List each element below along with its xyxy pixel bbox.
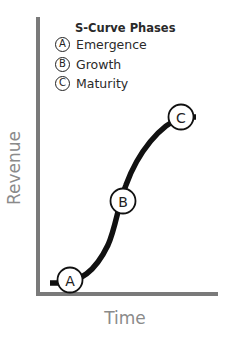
legend-item-emergence: A Emergence (55, 35, 176, 55)
y-axis-label: Revenue (4, 131, 24, 205)
badge-a-icon: A (55, 37, 70, 52)
legend: S-Curve Phases A Emergence B Growth C Ma… (55, 21, 176, 94)
badge-c-icon: C (55, 76, 70, 91)
node-a: A (58, 268, 83, 293)
node-b: B (111, 189, 136, 214)
node-c-label: C (176, 110, 186, 126)
node-c: C (169, 105, 194, 130)
legend-title: S-Curve Phases (75, 21, 176, 35)
legend-label: Maturity (76, 76, 128, 91)
node-b-label: B (118, 194, 128, 210)
legend-item-growth: B Growth (55, 55, 176, 75)
badge-b-icon: B (55, 57, 70, 72)
legend-item-maturity: C Maturity (55, 74, 176, 94)
legend-label: Growth (76, 57, 121, 72)
legend-label: Emergence (76, 37, 147, 52)
x-axis-label: Time (104, 308, 146, 328)
node-a-label: A (65, 273, 75, 289)
